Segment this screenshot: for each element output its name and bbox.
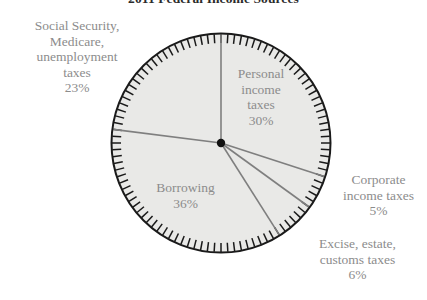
rim-tick [227,34,228,43]
label-line: taxes [2,65,152,81]
rim-tick [214,34,215,43]
slice-label-personal-income-taxes: Personal income taxes 30% [213,66,309,128]
label-value: 5% [330,203,427,219]
slice-label-social-security: Social Security, Medicare, unemployment … [2,18,152,96]
rim-tick [112,136,121,137]
slice-label-borrowing: Borrowing 36% [133,180,238,211]
pie-chart-figure: 2011 Federal Income Sources Social Secur… [0,0,427,300]
label-line: Social Security, [2,18,152,34]
slice-label-excise-estate-customs-taxes: Excise, estate, customs taxes 6% [288,236,427,283]
pie-center-dot [217,139,225,147]
label-value: 6% [288,267,427,283]
label-line: Borrowing [133,180,238,196]
label-line: unemployment [2,49,152,65]
rim-tick [321,149,330,150]
rim-tick [214,243,215,252]
label-line: Excise, estate, [288,236,427,252]
label-value: 36% [133,196,238,212]
slice-label-corporate-income-taxes: Corporate income taxes 5% [330,172,427,219]
label-line: customs taxes [288,252,427,268]
rim-tick [112,149,121,150]
label-value: 23% [2,80,152,96]
label-line: taxes [213,97,309,113]
rim-tick [227,243,228,252]
label-line: Personal [213,66,309,82]
rim-tick [321,136,330,137]
label-line: income [213,82,309,98]
label-line: Corporate [330,172,427,188]
label-line: Medicare, [2,34,152,50]
label-value: 30% [213,113,309,129]
label-line: income taxes [330,188,427,204]
